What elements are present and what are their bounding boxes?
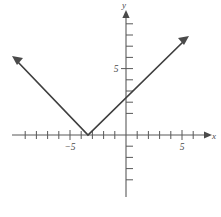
y-axis: 5 y [114, 0, 133, 197]
curve-left-arrowhead [12, 56, 23, 65]
y-tick-label-5: 5 [114, 64, 119, 74]
x-axis-arrowhead [204, 131, 212, 138]
graph-figure: −5 5 x 5 [0, 0, 221, 217]
x-tick-label-neg-5: −5 [64, 142, 75, 152]
curve-right-arrowhead [178, 36, 189, 45]
x-tick-label-5: 5 [180, 142, 185, 152]
cartesian-plot: −5 5 x 5 [0, 0, 221, 217]
curve-path [16, 40, 185, 135]
x-axis: −5 5 x [12, 130, 216, 152]
y-axis-title: y [121, 0, 126, 10]
absolute-value-curve [12, 36, 189, 135]
x-axis-title: x [211, 131, 216, 141]
y-axis-arrowhead [122, 10, 129, 18]
